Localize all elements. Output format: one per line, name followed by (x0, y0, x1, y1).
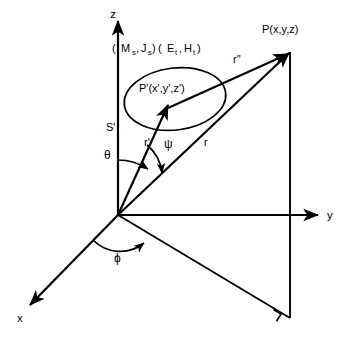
vector-coordinate-diagram: z y x P(x,y,z) P'(x',y',z') S' ( M s , J… (0, 0, 344, 339)
e-field-subscript: t (175, 48, 178, 57)
angle-phi-label: ϕ (114, 251, 121, 265)
comma-2: , (179, 42, 182, 54)
vector-r-double-prime (168, 54, 288, 108)
y-axis-label: y (327, 209, 333, 221)
point-p-label: P(x,y,z) (262, 23, 298, 35)
paren-open-1: ( (112, 42, 116, 54)
electric-current-symbol: J (141, 42, 147, 54)
xy-projection-line (118, 215, 290, 318)
h-field-symbol: H (184, 42, 192, 54)
source-quantities-label: ( M s , J s ) ( E t , H t ) (112, 42, 201, 57)
surface-label: S' (106, 121, 115, 133)
x-axis-label: x (17, 312, 23, 324)
vector-r-double-prime-label: r" (233, 53, 241, 65)
angle-phi-arc (93, 240, 144, 251)
comma-1: , (136, 42, 139, 54)
vector-r-label: r (204, 136, 208, 148)
paren-open-2: ( (158, 42, 162, 54)
angle-psi-arc (147, 145, 162, 173)
angle-psi-label: ψ (164, 137, 173, 151)
diagram-canvas: z y x P(x,y,z) P'(x',y',z') S' ( M s , J… (0, 0, 344, 339)
e-field-symbol: E (167, 42, 174, 54)
h-field-subscript: t (193, 48, 196, 57)
angle-theta-label: θ (104, 148, 111, 162)
point-p-prime-label: P'(x',y',z') (139, 82, 185, 94)
vector-r-prime-label: r' (144, 136, 150, 148)
magnetic-current-symbol: M (121, 42, 130, 54)
paren-close-1: ) (152, 42, 156, 54)
z-axis-label: z (110, 8, 116, 20)
paren-close-2: ) (197, 42, 201, 54)
x-axis (30, 215, 118, 305)
